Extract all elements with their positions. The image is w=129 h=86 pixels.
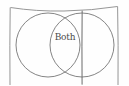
frame-right-edge xyxy=(118,7,119,86)
venn-circles xyxy=(16,13,114,77)
venn-diagram-canvas: Both xyxy=(0,0,129,85)
left-circle xyxy=(16,13,80,77)
venn-diagram-svg: Both xyxy=(0,0,129,85)
frame-top-edge xyxy=(11,7,118,12)
overlap-region-label: Both xyxy=(55,32,76,42)
